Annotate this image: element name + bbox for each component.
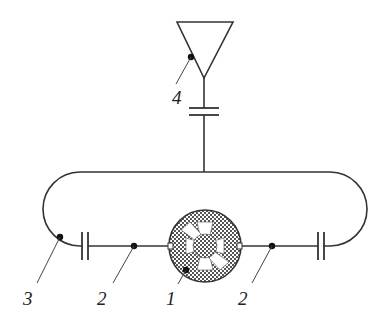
leader-line-2-right bbox=[252, 246, 272, 283]
label-2-right: 2 bbox=[238, 288, 248, 309]
label-1: 1 bbox=[166, 288, 176, 309]
right-terminal bbox=[237, 243, 242, 249]
label-4: 4 bbox=[172, 87, 182, 108]
rotor-hub bbox=[193, 234, 217, 258]
antenna-element bbox=[176, 22, 233, 84]
diagram-canvas: 4 3 2 1 2 bbox=[0, 0, 380, 322]
label-2-left: 2 bbox=[97, 288, 107, 309]
feed-line bbox=[189, 78, 219, 172]
rotary-element bbox=[168, 210, 242, 282]
leader-line-3 bbox=[37, 237, 60, 283]
leader-line-2-left bbox=[113, 246, 134, 283]
left-capacitor bbox=[82, 232, 88, 260]
right-capacitor bbox=[318, 232, 324, 260]
left-terminal bbox=[168, 243, 173, 249]
label-3: 3 bbox=[22, 288, 33, 309]
leader-line-4 bbox=[176, 57, 191, 84]
